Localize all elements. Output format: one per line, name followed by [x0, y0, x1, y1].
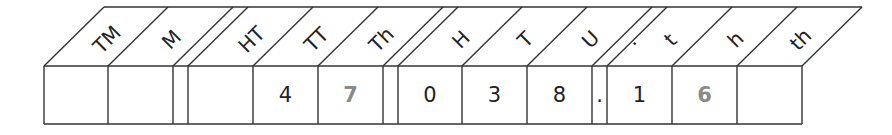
column-header-t: T [512, 26, 539, 53]
digit-cell-value: 1 [633, 83, 646, 107]
digit-cell-value: 6 [697, 83, 712, 107]
digit-cell-value: 4 [279, 83, 292, 107]
place-value-chart: TMMHTTT4Th7H0T3U8..t1h6th [0, 0, 892, 135]
digit-cell-value: 0 [423, 83, 436, 107]
column-header-ht: HT [233, 21, 270, 58]
column-header-decimal-point: . [620, 29, 641, 50]
digit-cell-value: . [596, 83, 603, 107]
column-header-t: t [659, 28, 682, 51]
digit-cell-value: 8 [553, 83, 566, 107]
column-header-u: U [577, 26, 604, 53]
column-header-m: M [157, 25, 186, 54]
column-header-h: h [722, 26, 748, 52]
digit-cell-value: 7 [343, 83, 358, 107]
digit-cell-value: 3 [488, 83, 501, 107]
header-slant-divider [173, 7, 233, 66]
header-slant-divider [607, 7, 667, 66]
place-value-diagram: TMMHTTT4Th7H0T3U8..t1h6th [0, 0, 892, 135]
column-header-h: H [447, 26, 475, 54]
column-header-th: Th [363, 22, 398, 57]
column-header-th: th [785, 24, 816, 55]
column-header-tt: TT [299, 22, 334, 57]
